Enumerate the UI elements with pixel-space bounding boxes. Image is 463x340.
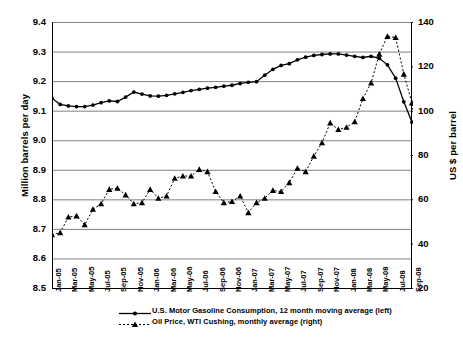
data-point-0 [328,52,332,56]
data-point-0 [91,103,95,107]
data-point-1 [253,200,259,206]
data-point-1 [237,193,243,199]
data-point-1 [303,169,309,175]
legend-label: Oil Price, WTI Cushing, monthly average … [152,317,322,326]
data-point-1 [229,198,235,204]
chart-legend: U.S. Motor Gasoline Consumption, 12 mont… [118,305,418,327]
data-point-1 [114,185,120,191]
legend-item: U.S. Motor Gasoline Consumption, 12 mont… [118,305,418,316]
data-point-0 [394,76,398,80]
data-point-1 [213,188,219,194]
legend-marker-circle-icon [118,305,152,316]
data-point-1 [343,124,349,130]
data-point-0 [66,104,70,108]
data-point-0 [279,64,283,68]
data-point-1 [384,33,390,39]
data-point-0 [107,99,111,103]
data-point-1 [139,200,145,206]
data-point-1 [352,119,358,125]
data-point-0 [287,62,291,66]
data-point-1 [368,80,374,86]
data-point-0 [296,58,300,62]
data-point-1 [73,213,79,219]
data-point-0 [75,105,79,109]
data-point-0 [181,90,185,94]
data-point-0 [214,85,218,89]
data-point-1 [311,153,317,159]
data-point-0 [263,73,267,77]
data-point-0 [83,105,87,109]
legend-label: U.S. Motor Gasoline Consumption, 12 mont… [152,306,392,315]
data-point-0 [230,83,234,87]
data-point-0 [336,52,340,56]
data-point-1 [270,187,276,193]
data-point-1 [262,195,268,201]
data-point-0 [156,94,160,98]
data-point-0 [304,55,308,59]
data-point-1 [123,192,129,198]
data-point-1 [90,206,96,212]
data-point-0 [189,89,193,93]
data-point-0 [361,56,365,60]
chart-svg [52,22,413,289]
data-point-0 [353,54,357,58]
data-point-1 [360,95,366,101]
data-point-1 [57,229,63,235]
data-point-1 [172,175,178,181]
data-point-0 [320,53,324,57]
data-point-0 [238,82,242,86]
data-point-1 [82,222,88,228]
data-point-0 [197,87,201,91]
data-point-0 [246,80,250,84]
data-point-0 [173,92,177,96]
data-point-0 [402,100,406,104]
data-point-1 [294,165,300,171]
data-point-1 [245,210,251,216]
data-point-1 [147,186,153,192]
data-point-0 [148,94,152,98]
data-point-1 [131,201,137,207]
data-point-0 [124,95,128,99]
plot-area [52,22,412,288]
data-point-0 [222,84,226,88]
data-point-0 [410,120,413,124]
data-point-0 [255,80,259,84]
data-point-1 [327,120,333,126]
data-point-0 [312,54,316,58]
chart-container: Million barrels per day US $ per barrel … [0,0,463,340]
legend-item: Oil Price, WTI Cushing, monthly average … [118,316,418,327]
data-point-0 [132,90,136,94]
data-point-0 [271,67,275,71]
data-point-1 [335,126,341,132]
x-axis-tick-label: Sep-08 [415,267,423,292]
data-point-0 [386,63,390,67]
data-point-1 [401,71,407,77]
data-point-0 [99,101,103,105]
data-point-1 [196,166,202,172]
data-point-1 [98,201,104,207]
data-point-1 [286,180,292,186]
legend-marker-triangle-icon [118,316,152,327]
series-line-1 [52,36,413,234]
data-point-1 [163,193,169,199]
data-point-1 [204,169,210,175]
data-point-0 [140,92,144,96]
data-point-0 [165,93,169,97]
data-point-0 [58,103,62,107]
data-point-0 [345,53,349,57]
data-point-0 [206,86,210,90]
data-point-0 [116,100,120,104]
data-point-1 [180,173,186,179]
data-point-0 [369,54,373,58]
